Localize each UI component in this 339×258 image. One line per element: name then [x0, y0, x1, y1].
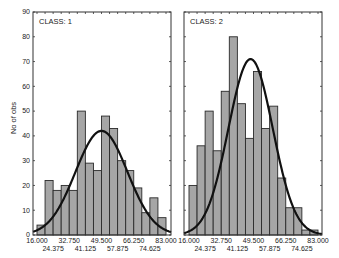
y-tick-label: 60: [22, 83, 30, 90]
y-tick-label: 20: [22, 182, 30, 189]
histogram-bar: [205, 111, 213, 235]
histogram-figure: 010203040506070809016.00032.75049.50066.…: [0, 0, 339, 258]
panel-class-1: 010203040506070809016.00032.75049.50066.…: [22, 8, 177, 252]
x-tick-label: 57.875: [259, 245, 281, 252]
x-tick-label: 74.625: [139, 245, 161, 252]
x-tick-label: 16.000: [26, 237, 48, 244]
histogram-bar: [69, 190, 77, 235]
histogram-bar: [278, 178, 286, 235]
y-tick-label: 80: [22, 33, 30, 40]
x-tick-label: 66.250: [123, 237, 145, 244]
panel-class-2: 16.00032.75049.50066.25083.00024.37541.1…: [178, 12, 329, 252]
histogram-bar: [254, 71, 262, 235]
y-tick-label: 10: [22, 207, 30, 214]
histogram-bar: [118, 161, 126, 235]
histogram-bar: [77, 111, 85, 235]
y-tick-label: 90: [22, 8, 30, 15]
histogram-bar: [221, 91, 229, 235]
x-tick-label: 49.500: [243, 237, 265, 244]
histogram-bar: [302, 230, 310, 235]
histogram-bar: [245, 138, 253, 235]
histogram-bar: [229, 37, 237, 235]
x-tick-label: 24.375: [42, 245, 64, 252]
x-tick-label: 24.375: [194, 245, 216, 252]
x-tick-label: 32.750: [59, 237, 81, 244]
panel-title: CLASS: 2: [190, 17, 223, 26]
x-tick-label: 41.125: [227, 245, 249, 252]
x-tick-label: 49.500: [91, 237, 113, 244]
histogram-bar: [262, 128, 270, 235]
histogram-bar: [45, 180, 53, 235]
x-tick-label: 57.875: [107, 245, 129, 252]
x-tick-label: 74.625: [291, 245, 313, 252]
x-tick-label: 83.000: [155, 237, 177, 244]
histogram-bar: [85, 163, 93, 235]
histogram-bar: [93, 171, 101, 235]
y-tick-label: 40: [22, 132, 30, 139]
histogram-bar: [61, 185, 69, 235]
y-tick-label: 50: [22, 107, 30, 114]
histogram-bars: [37, 111, 166, 235]
x-tick-label: 16.000: [178, 237, 200, 244]
x-tick-label: 83.000: [307, 237, 329, 244]
histogram-bar: [126, 171, 134, 235]
y-tick-label: 30: [22, 157, 30, 164]
histogram-bar: [270, 106, 278, 235]
histogram-bar: [286, 208, 294, 235]
panel-title: CLASS: 1: [39, 17, 72, 26]
histogram-bar: [237, 104, 245, 235]
x-tick-label: 66.250: [275, 237, 297, 244]
histogram-chart: 010203040506070809016.00032.75049.50066.…: [0, 0, 339, 258]
y-tick-label: 70: [22, 58, 30, 65]
x-tick-label: 41.125: [75, 245, 97, 252]
y-axis-label: No of obs: [9, 102, 18, 134]
x-tick-label: 32.750: [211, 237, 233, 244]
